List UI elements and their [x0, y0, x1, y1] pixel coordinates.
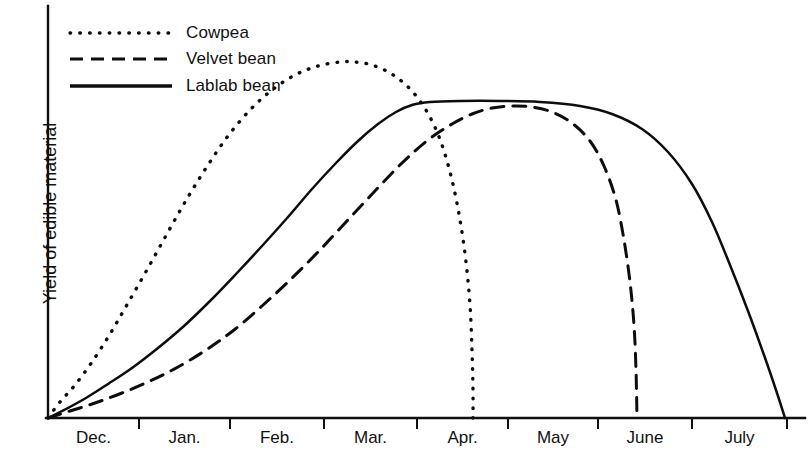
- x-axis-tick-label: Apr.: [447, 428, 477, 448]
- x-axis-tick-label: Jan.: [168, 428, 200, 448]
- series-line-cowpea: [48, 62, 473, 418]
- x-axis-tick-label: Mar.: [354, 428, 387, 448]
- x-axis-tick-label: July: [724, 428, 754, 448]
- x-axis-tick-label: June: [627, 428, 664, 448]
- x-axis-tick-label: Dec.: [76, 428, 111, 448]
- legend-label-cowpea: Cowpea: [186, 23, 249, 43]
- legend-label-lablab-bean: Lablab bean: [186, 76, 281, 96]
- chart-figure: Cowpea Velvet bean Lablab bean Dec.Jan.F…: [0, 0, 810, 450]
- chart-series-group: [48, 62, 785, 418]
- series-line-velvet-bean: [48, 106, 637, 418]
- legend-label-velvet-bean: Velvet bean: [186, 49, 276, 69]
- y-axis-label: Yield of edible material: [40, 84, 61, 344]
- x-axis-tick-label: Feb.: [260, 428, 294, 448]
- chart-plot-area: [0, 0, 810, 450]
- x-axis-tick-label: May: [537, 428, 569, 448]
